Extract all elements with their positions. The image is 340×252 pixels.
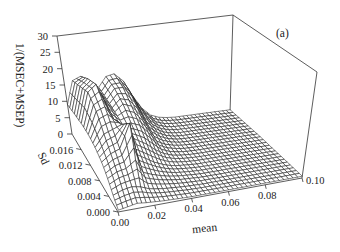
box-top-back-edge [57, 15, 233, 36]
mean-tick [192, 198, 193, 202]
z-axis: 051015202530 [38, 31, 73, 140]
mean-tick-label: 0.08 [258, 190, 276, 201]
mean-tick-label: 0.02 [148, 210, 166, 221]
sd-tick-label: 0.000 [86, 207, 110, 218]
z-tick-label: 30 [38, 31, 49, 42]
mean-tick-label: 0.00 [111, 217, 129, 228]
z-tick-label: 5 [55, 113, 60, 124]
mean-tick [118, 212, 119, 216]
z-tick-label: 25 [40, 47, 51, 58]
sd-tick-label: 0.004 [77, 191, 101, 202]
z-tick-label: 15 [45, 80, 56, 91]
mean-axis-title: mean [192, 221, 218, 236]
mean-tick-label: 0.06 [221, 197, 239, 208]
mean-tick-label: 0.10 [306, 175, 324, 186]
surface-plot: 051015202530 0.0000.0040.0080.0120.016 0… [0, 0, 340, 252]
mean-tick-label: 0.04 [184, 203, 203, 214]
mean-tick [302, 178, 303, 182]
mean-tick [265, 185, 266, 189]
sd-tick-label: 0.008 [68, 176, 92, 187]
sd-tick-label: 0.016 [50, 145, 74, 156]
z-axis-title: 1/(MSEC+MSEP) [13, 43, 26, 128]
panel-label: (a) [276, 27, 289, 40]
box-front-right-edge [302, 72, 317, 178]
z-tick-label: 10 [48, 96, 59, 107]
z-tick-label: 20 [43, 64, 54, 75]
mean-tick [155, 205, 156, 209]
box-back-right-edge [230, 15, 233, 113]
sd-tick-label: 0.012 [59, 160, 83, 171]
box-top-right-edge [233, 15, 317, 72]
mean-tick [228, 192, 229, 196]
z-tick-label: 0 [58, 129, 63, 140]
